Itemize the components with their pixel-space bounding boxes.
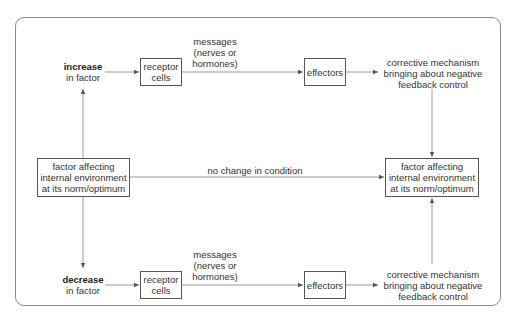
top-receptor-cells-box: receptor cells <box>140 58 182 86</box>
left-norm-factor-box: factor affecting internal environment at… <box>37 158 130 197</box>
decrease-in-factor-label: decrease in factor <box>58 274 108 296</box>
right-norm-factor-box: factor affecting internal environment at… <box>385 158 479 197</box>
top-messages-label: messages (nerves or hormones) <box>185 36 245 69</box>
top-corrective-mechanism-label: corrective mechanism bringing about nega… <box>378 57 488 90</box>
top-effectors-box: effectors <box>304 58 346 86</box>
bottom-effectors-box: effectors <box>304 271 346 299</box>
bottom-receptor-cells-box: receptor cells <box>140 271 182 299</box>
bottom-messages-label: messages (nerves or hormones) <box>185 249 245 282</box>
bottom-corrective-mechanism-label: corrective mechanism bringing about nega… <box>378 269 488 302</box>
no-change-label: no change in condition <box>190 165 320 176</box>
increase-in-factor-label: increase in factor <box>58 61 108 83</box>
